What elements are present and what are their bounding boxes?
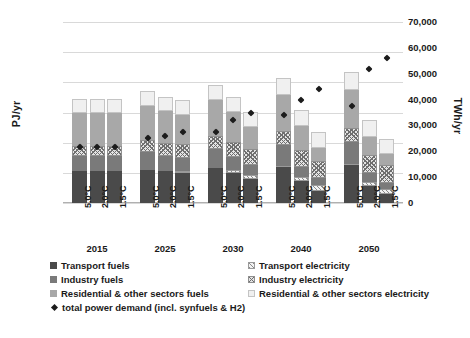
legend-item: Residential & other sectors fuels bbox=[50, 289, 209, 299]
bar-segment-industry_elec bbox=[344, 128, 359, 142]
bar-segment-industry_fuel bbox=[362, 173, 377, 182]
bar-segment-industry_elec bbox=[243, 149, 258, 165]
y-tick-label-right: 30,000 bbox=[408, 120, 468, 130]
x-tick-label-scenario: 2.0°C bbox=[169, 185, 178, 208]
bar-segment-transport_elec bbox=[226, 170, 241, 172]
x-tick-label-scenario: 5.0°C bbox=[84, 185, 93, 208]
legend-label: Industry fuels bbox=[61, 275, 123, 285]
bar-segment-industry_elec bbox=[276, 131, 291, 145]
bar-stack[interactable] bbox=[72, 22, 87, 203]
bar-segment-industry_fuel bbox=[140, 152, 155, 169]
legend-label: Industry electricity bbox=[259, 275, 343, 285]
bar-segment-industry_fuel bbox=[226, 157, 241, 171]
legend-item: total power demand (incl. synfuels & H2) bbox=[50, 303, 245, 313]
bar-segment-resid_fuel bbox=[107, 113, 122, 146]
bar-segment-resid_fuel bbox=[362, 137, 377, 155]
legend-label: Residential & other sectors electricity bbox=[259, 289, 429, 299]
bar-segment-industry_fuel bbox=[344, 142, 359, 164]
bar-segment-resid_fuel bbox=[379, 154, 394, 165]
x-tick-label-scenario: 5.0°C bbox=[356, 185, 365, 208]
y-tick-label-right: 40,000 bbox=[408, 95, 468, 105]
plot-area bbox=[63, 22, 403, 203]
bar-stack[interactable] bbox=[379, 22, 394, 203]
x-tick-label-scenario: 1.5°C bbox=[323, 185, 332, 208]
x-tick-label-scenario: 5.0°C bbox=[152, 185, 161, 208]
bar-segment-industry_fuel bbox=[107, 156, 122, 171]
bar-segment-resid_elec bbox=[208, 85, 223, 100]
legend-item: Industry fuels bbox=[50, 275, 123, 285]
x-tick-label-scenario: 1.5°C bbox=[187, 185, 196, 208]
legend-swatch-hatch-cross bbox=[248, 276, 255, 283]
x-group-label-year: 2025 bbox=[131, 243, 199, 254]
x-tick-label-scenario: 5.0°C bbox=[220, 185, 229, 208]
legend-swatch-solid-light bbox=[50, 290, 57, 297]
legend-label: Residential & other sectors fuels bbox=[61, 289, 209, 299]
legend-label: Transport fuels bbox=[61, 261, 130, 271]
bar-segment-resid_elec bbox=[379, 139, 394, 155]
bar-segment-industry_fuel bbox=[294, 167, 309, 178]
bar-stack[interactable] bbox=[208, 22, 223, 203]
bar-segment-industry_elec bbox=[208, 136, 223, 149]
bar-segment-resid_fuel bbox=[72, 113, 87, 146]
bar-stack[interactable] bbox=[107, 22, 122, 203]
legend-item: Transport fuels bbox=[50, 261, 130, 271]
bar-stack[interactable] bbox=[344, 22, 359, 203]
bar-segment-resid_elec bbox=[140, 91, 155, 105]
legend-swatch-solid-dark bbox=[50, 262, 57, 269]
bar-segment-resid_elec bbox=[344, 72, 359, 89]
bar-segment-resid_elec bbox=[158, 97, 173, 111]
bar-segment-industry_elec bbox=[311, 161, 326, 178]
bar-stack[interactable] bbox=[90, 22, 105, 203]
bar-stack[interactable] bbox=[140, 22, 155, 203]
x-tick-label-scenario: 2.0°C bbox=[373, 185, 382, 208]
bar-segment-resid_elec bbox=[107, 99, 122, 113]
bar-segment-industry_fuel bbox=[276, 145, 291, 166]
bar-segment-industry_elec bbox=[362, 155, 377, 172]
bar-segment-resid_fuel bbox=[311, 148, 326, 161]
bar-segment-industry_fuel bbox=[243, 165, 258, 176]
bar-segment-transport_elec bbox=[243, 175, 258, 179]
gridline bbox=[63, 203, 403, 204]
x-group-label-year: 2050 bbox=[335, 243, 403, 254]
legend-item: Industry electricity bbox=[248, 275, 343, 285]
bar-segment-industry_fuel bbox=[90, 156, 105, 171]
bar-segment-resid_elec bbox=[276, 78, 291, 95]
bar-stack[interactable] bbox=[158, 22, 173, 203]
bar-stack[interactable] bbox=[226, 22, 241, 203]
legend-label: total power demand (incl. synfuels & H2) bbox=[62, 303, 245, 313]
legend-swatch-solid-mid bbox=[50, 276, 57, 283]
bar-segment-resid_elec bbox=[294, 110, 309, 127]
x-group-label-year: 2030 bbox=[199, 243, 267, 254]
bar-stack[interactable] bbox=[294, 22, 309, 203]
bar-segment-resid_elec bbox=[90, 99, 105, 113]
x-tick-label-scenario: 1.5°C bbox=[119, 185, 128, 208]
bar-segment-industry_elec bbox=[226, 142, 241, 157]
bar-segment-resid_elec bbox=[72, 99, 87, 113]
legend-item: Transport electricity bbox=[248, 261, 350, 271]
x-tick-label-scenario: 5.0°C bbox=[288, 185, 297, 208]
bar-segment-resid_fuel bbox=[243, 127, 258, 149]
bar-stack[interactable] bbox=[175, 22, 190, 203]
bar-segment-industry_fuel bbox=[158, 156, 173, 171]
legend-swatch-plain-light bbox=[248, 290, 255, 297]
bar-segment-industry_fuel bbox=[175, 158, 190, 172]
bar-stack[interactable] bbox=[362, 22, 377, 203]
bar-segment-resid_elec bbox=[226, 97, 241, 112]
y-tick-label-right: 50,000 bbox=[408, 69, 468, 79]
bar-segment-industry_elec bbox=[175, 144, 190, 158]
y-tick-label-right: 60,000 bbox=[408, 43, 468, 53]
y-tick-label-right: 10,000 bbox=[408, 172, 468, 182]
y-axis-title-left: PJ/yr bbox=[10, 84, 22, 144]
bar-segment-industry_fuel bbox=[208, 149, 223, 169]
y-tick-label-right: 70,000 bbox=[408, 17, 468, 27]
chart-figure: PJ/yr TWh/yr 0100,000200,000300,000400,0… bbox=[0, 0, 470, 338]
bar-segment-industry_elec bbox=[379, 165, 394, 183]
bar-segment-transport_elec bbox=[294, 177, 309, 181]
bar-segment-resid_elec bbox=[362, 120, 377, 137]
bar-segment-resid_elec bbox=[175, 100, 190, 114]
bar-stack[interactable] bbox=[311, 22, 326, 203]
bar-segment-industry_elec bbox=[294, 150, 309, 167]
x-group-label-year: 2040 bbox=[267, 243, 335, 254]
legend-swatch-hatch-light bbox=[248, 262, 255, 269]
legend-swatch-diamond-icon bbox=[51, 304, 58, 311]
